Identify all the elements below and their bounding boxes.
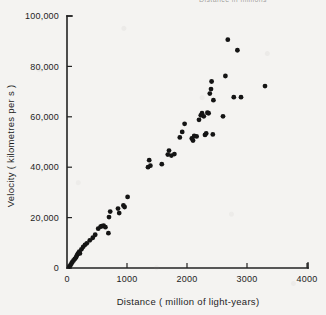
data-point (167, 148, 172, 153)
hubble-diagram-figure: Distance in millions 020,00040,00060,000… (0, 0, 326, 315)
data-point (106, 231, 111, 236)
data-point (117, 211, 122, 216)
data-point (201, 114, 206, 119)
data-point (172, 152, 177, 157)
x-tick-label: 1000 (117, 274, 138, 284)
y-tick-label: 100,000 (25, 11, 59, 21)
data-point (182, 121, 187, 126)
data-point (103, 225, 108, 230)
scatter-plot-canvas: 020,00040,00060,00080,000100,000 0100020… (0, 0, 326, 315)
data-point (180, 130, 185, 135)
data-point (231, 95, 236, 100)
data-point (239, 95, 244, 100)
y-axis-title: Velocity ( kilometres per s ) (5, 85, 16, 208)
x-axis-title: Distance ( million of light-years) (117, 296, 260, 307)
data-point (191, 138, 196, 143)
data-point (159, 162, 164, 167)
y-tick-label: 80,000 (30, 62, 59, 72)
data-point (206, 111, 211, 116)
data-point (209, 79, 214, 84)
data-point (148, 163, 153, 168)
x-tick-label: 3000 (237, 274, 258, 284)
data-point (125, 195, 130, 200)
y-tick-label: 0 (54, 263, 59, 273)
x-tick-label: 4000 (297, 274, 318, 284)
y-tick-label: 60,000 (30, 112, 59, 122)
x-tick-label: 2000 (177, 274, 198, 284)
data-point (147, 158, 152, 163)
y-tick-label: 20,000 (30, 213, 59, 223)
data-point (194, 134, 199, 139)
data-point (210, 132, 215, 137)
x-axis-tick-labels: 01000200030004000 (64, 274, 317, 284)
data-point (107, 215, 112, 220)
data-point (263, 84, 268, 89)
data-point (207, 91, 212, 96)
data-point (225, 37, 230, 42)
data-point (197, 117, 202, 122)
data-point (116, 206, 121, 211)
data-point (177, 135, 182, 140)
x-tick-label: 0 (64, 274, 69, 284)
data-point (122, 205, 127, 210)
y-tick-label: 40,000 (30, 162, 59, 172)
data-point (209, 87, 214, 92)
data-point (211, 98, 216, 103)
data-point (235, 48, 240, 53)
data-points-layer (67, 37, 267, 269)
data-point (204, 131, 209, 136)
data-point (93, 232, 98, 237)
y-axis-tick-labels: 020,00040,00060,00080,000100,000 (25, 11, 59, 273)
data-point (221, 114, 226, 119)
data-point (108, 209, 113, 214)
data-point (223, 74, 228, 79)
